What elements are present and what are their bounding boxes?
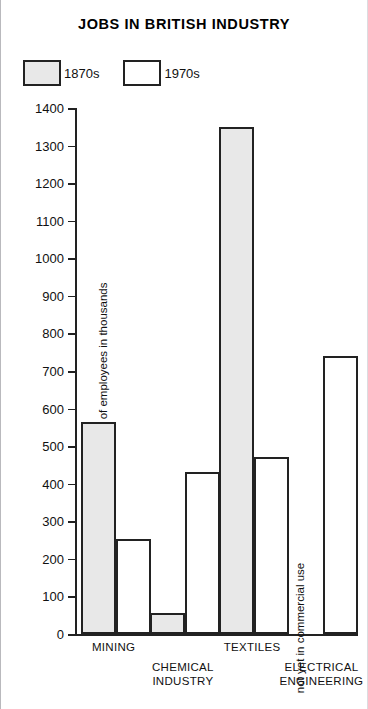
plot-area: 0100200300400500600700800900100011001200… [75,108,358,636]
category-label-line2: INDUSTRY [126,674,240,688]
bar-group-container: not yet in commercial use [77,108,358,634]
y-axis-tick-label: 400 [42,476,64,491]
y-axis-tick-label: 1000 [35,251,64,266]
x-axis-category-labels: MININGCHEMICALINDUSTRYTEXTILESELECTRICAL… [75,640,358,704]
y-axis-tick-label: 900 [42,288,64,303]
y-axis-tick-mark [68,559,76,561]
legend-item-1970s: 1970s [123,60,199,86]
y-axis-tick-mark [68,409,76,411]
y-axis-tick-label: 600 [42,401,64,416]
bar [185,472,220,634]
page-title: JOBS IN BRITISH INDUSTRY [1,16,367,32]
y-axis-tick-mark [68,446,76,448]
y-axis-tick-mark [68,634,76,636]
y-axis-tick-label: 1300 [35,138,64,153]
y-axis-tick-label: 700 [42,364,64,379]
legend-label-1870s: 1870s [64,66,99,81]
y-axis-tick-label: 1400 [35,101,64,116]
y-axis-tick-mark [68,183,76,185]
x-axis-category-label: TEXTILES [195,640,309,654]
x-axis-category-label: CHEMICALINDUSTRY [126,660,240,688]
legend-label-1970s: 1970s [164,66,199,81]
bar [150,613,185,634]
y-axis-tick-label: 1100 [36,213,64,228]
bar [219,127,254,634]
x-axis-category-label: ELECTRICALENGINEERING [264,660,368,688]
y-axis-tick-mark [68,108,76,110]
category-label-line1: TEXTILES [224,641,281,653]
chart-page: JOBS IN BRITISH INDUSTRY 1870s 1970s 010… [0,0,368,709]
y-axis-tick-mark [68,596,76,598]
x-axis-category-label: MINING [57,640,171,654]
x-axis-line [75,634,358,636]
y-axis-tick-label: 800 [42,326,64,341]
y-axis-tick-mark [68,296,76,298]
y-axis-tick-mark [68,146,76,148]
y-axis-tick-label: 1200 [35,176,64,191]
y-axis-tick-label: 200 [42,551,64,566]
bar-empty-slot: not yet in commercial use [288,633,323,634]
category-label-line2: ENGINEERING [264,674,368,688]
y-axis-tick-label: 300 [42,514,64,529]
bar [116,539,151,634]
legend-swatch-1970s [123,60,161,86]
category-label-line1: ELECTRICAL [284,661,358,673]
bar [254,457,289,634]
y-axis-tick-mark [68,521,76,523]
legend-swatch-1870s [23,60,61,86]
y-axis-tick-mark [68,484,76,486]
y-axis-tick-mark [68,221,76,223]
category-label-line1: MINING [92,641,135,653]
category-label-line1: CHEMICAL [152,661,214,673]
bar [81,422,116,634]
y-axis-tick-mark [68,258,76,260]
y-axis-tick-mark [68,333,76,335]
y-axis-tick-label: 500 [42,439,64,454]
chart-legend: 1870s 1970s [23,60,200,86]
y-axis-tick-mark [68,371,76,373]
legend-item-1870s: 1870s [23,60,99,86]
y-axis-tick-label: 100 [42,589,64,604]
bar [323,356,358,634]
